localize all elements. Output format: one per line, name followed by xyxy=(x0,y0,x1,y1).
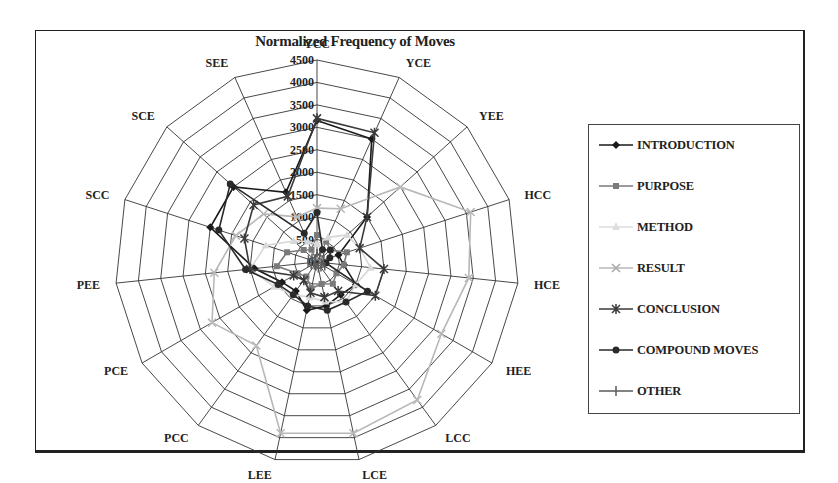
circle-marker-icon xyxy=(242,266,249,273)
circle-marker-icon xyxy=(275,281,282,288)
x-marker-icon xyxy=(413,396,421,404)
square-marker-icon xyxy=(301,247,307,253)
circle-marker-icon xyxy=(314,209,321,216)
axis-label-lcc: LCC xyxy=(445,431,470,445)
x-marker-icon xyxy=(599,260,633,276)
legend-item-introduction: INTRODUCTION xyxy=(599,135,735,155)
axis-label-hce: HCE xyxy=(534,278,560,292)
legend-item-purpose: PURPOSE xyxy=(599,176,694,196)
legend-label: METHOD xyxy=(637,220,693,235)
legend-item-method: METHOD xyxy=(599,217,693,237)
square-marker-icon xyxy=(284,249,290,255)
circle-marker-icon xyxy=(304,302,311,309)
axis-label-lce: LCE xyxy=(362,468,387,482)
square-marker-icon xyxy=(341,262,347,268)
circle-marker-icon xyxy=(599,342,633,358)
circle-marker-icon xyxy=(215,227,222,234)
circle-marker-icon xyxy=(290,291,297,298)
radial-tick-label: 3500 xyxy=(290,98,314,112)
square-marker-icon xyxy=(330,281,336,287)
radial-tick-label: 2000 xyxy=(290,165,314,179)
legend-label: INTRODUCTION xyxy=(637,138,735,153)
radial-tick-label: 3000 xyxy=(290,120,314,134)
legend-item-result: RESULT xyxy=(599,258,685,278)
chart-title: Normalized Frequency of Moves xyxy=(0,33,710,50)
legend-label: PURPOSE xyxy=(637,179,694,194)
square-marker-icon xyxy=(314,232,320,238)
circle-marker-icon xyxy=(301,230,308,237)
radial-tick-label: 4500 xyxy=(290,53,314,67)
axis-label-hee: HEE xyxy=(506,364,531,378)
asterisk-marker-icon xyxy=(306,288,314,298)
circle-marker-icon xyxy=(227,180,234,187)
axis-label-pcc: PCC xyxy=(164,431,189,445)
legend-label: RESULT xyxy=(637,261,685,276)
legend-item-other: OTHER xyxy=(599,381,681,401)
x-marker-icon xyxy=(232,232,240,240)
axis-label-hcc: HCC xyxy=(524,188,551,202)
axis-label-pee: PEE xyxy=(77,278,100,292)
circle-marker-icon xyxy=(343,298,350,305)
axis-label-sce: SCE xyxy=(132,109,155,123)
plus-marker-icon xyxy=(599,383,633,399)
square-marker-icon xyxy=(599,178,633,194)
circle-marker-icon xyxy=(327,246,334,253)
x-marker-icon xyxy=(396,183,404,191)
diamond-marker-icon xyxy=(599,137,633,153)
axis-label-scc: SCC xyxy=(86,188,110,202)
legend-label: COMPOUND MOVES xyxy=(637,343,758,358)
x-marker-icon xyxy=(437,330,445,338)
square-marker-icon xyxy=(309,247,315,253)
grid-spoke xyxy=(317,127,467,262)
legend-item-compound-moves: COMPOUND MOVES xyxy=(599,340,758,360)
legend: INTRODUCTION PURPOSE METHOD RESULT CONCL… xyxy=(588,124,800,414)
square-marker-icon xyxy=(319,281,325,287)
axis-label-see: SEE xyxy=(206,56,229,70)
asterisk-marker-icon xyxy=(300,275,308,285)
grid-spoke xyxy=(317,77,399,262)
axis-label-pce: PCE xyxy=(104,364,128,378)
circle-marker-icon xyxy=(324,307,331,314)
axis-label-yce: YCE xyxy=(406,56,431,70)
radial-tick-label: 1500 xyxy=(290,188,314,202)
axis-label-yee: YEE xyxy=(479,109,504,123)
square-marker-icon xyxy=(274,263,280,269)
legend-label: CONCLUSION xyxy=(637,302,720,317)
axis-label-lee: LEE xyxy=(248,468,272,482)
legend-item-conclusion: CONCLUSION xyxy=(599,299,720,319)
asterisk-marker-icon xyxy=(240,233,248,243)
asterisk-marker-icon xyxy=(320,292,328,302)
asterisk-marker-icon xyxy=(599,301,633,317)
square-marker-icon xyxy=(344,249,350,255)
circle-marker-icon xyxy=(364,288,371,295)
grid-spoke xyxy=(116,262,317,283)
radial-tick-label: 4000 xyxy=(290,75,314,89)
asterisk-marker-icon xyxy=(356,243,364,253)
triangle-marker-icon xyxy=(599,219,633,235)
legend-label: OTHER xyxy=(637,384,681,399)
